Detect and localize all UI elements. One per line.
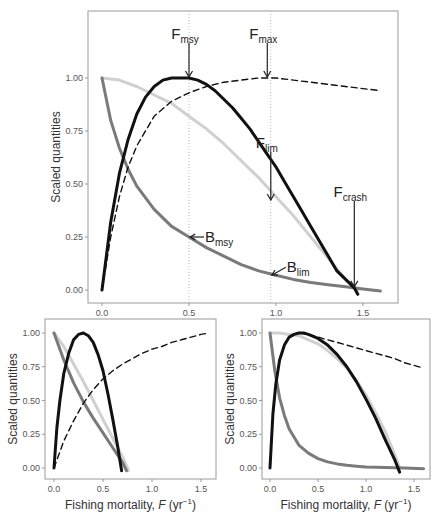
x-tick-label: 0.5 [312, 484, 325, 494]
annotation-label: Bmsy [205, 228, 233, 248]
x-tick-label: 1.0 [270, 308, 283, 318]
y-tick-label: 1.00 [65, 73, 83, 83]
annotation-sub: lim [297, 267, 310, 278]
plot-frame [45, 319, 216, 479]
x-tick-label: 0.0 [96, 308, 109, 318]
x-tick-label: 0.0 [48, 484, 61, 494]
series-line-yield-per-recruit [54, 333, 209, 468]
x-tick-label: 0.5 [97, 484, 110, 494]
annotation-main: F [171, 25, 180, 42]
annotation-b-lim: Blim [272, 258, 310, 278]
x-tick-label: 1.5 [195, 484, 208, 494]
x-tick-label: 0.5 [183, 308, 196, 318]
x-tick-label: 1.0 [360, 484, 373, 494]
series-line-biomass [270, 333, 424, 469]
series-line-yield [102, 78, 358, 294]
annotation-main: F [249, 25, 258, 42]
x-axis-label-text: Fishing mortality, [281, 498, 374, 512]
annotation-sub: crash [343, 192, 367, 203]
annotation-sub: msy [215, 237, 233, 248]
y-tick-label: 0.25 [22, 429, 40, 439]
y-tick-label: 1.00 [239, 328, 257, 338]
series-group [270, 333, 424, 472]
annotation-label: Blim [287, 258, 310, 278]
x-axis-label-close: ) [407, 498, 411, 512]
annotation-sub: msy [180, 34, 198, 45]
annotation-main: F [333, 183, 342, 200]
plot-frame [88, 11, 398, 303]
series-line-biomass [54, 333, 127, 471]
annotation-f-max: Fmax [249, 25, 277, 77]
y-tick-label: 0.25 [239, 429, 257, 439]
y-tick-label: 0.00 [65, 285, 83, 295]
y-axis-label: Scaled quantities [49, 111, 63, 202]
annotation-sub: lim [265, 143, 278, 154]
y-tick-label: 0.25 [65, 232, 83, 242]
figure: 0.000.250.500.751.000.00.51.01.5Scaled q… [0, 0, 439, 514]
series-group [54, 333, 209, 471]
x-axis-label-unit: (yr [166, 498, 183, 512]
x-axis-label-unit: (yr [381, 498, 398, 512]
y-axis-label: Scaled quantities [6, 353, 20, 444]
y-tick-label: 0.50 [239, 396, 257, 406]
y-tick-label: 0.00 [22, 463, 40, 473]
x-axis-label: Fishing mortality, F (yr−1) [281, 497, 412, 512]
y-tick-label: 0.75 [65, 126, 83, 136]
x-tick-label: 1.0 [146, 484, 159, 494]
x-axis-label-text: Fishing mortality, [65, 498, 158, 512]
x-tick-label: 1.5 [357, 308, 370, 318]
x-tick-label: 1.5 [408, 484, 421, 494]
annotation-main: B [205, 228, 215, 245]
y-tick-label: 0.00 [239, 463, 257, 473]
annotation-label: Fmax [249, 25, 277, 45]
y-tick-label: 0.50 [22, 396, 40, 406]
annotation-label: Fcrash [333, 183, 367, 203]
panel-main: 0.000.250.500.751.000.00.51.01.5Scaled q… [49, 11, 398, 318]
annotation-f-msy: Fmsy [171, 25, 199, 77]
x-axis-label: Fishing mortality, F (yr−1) [65, 497, 196, 512]
y-tick-label: 1.00 [22, 328, 40, 338]
y-tick-label: 0.50 [65, 179, 83, 189]
annotation-b-msy: Bmsy [190, 228, 233, 248]
panel-bottom-left: 0.000.250.500.751.000.00.51.01.5Scaled q… [6, 319, 216, 512]
annotation-sub: max [258, 34, 277, 45]
y-axis-label: Scaled quantities [223, 353, 237, 444]
series-line-yield [54, 333, 122, 471]
y-tick-label: 0.75 [239, 362, 257, 372]
y-tick-label: 0.75 [22, 362, 40, 372]
x-axis-label-close: ) [192, 498, 196, 512]
annotation-label: Flim [256, 134, 278, 154]
annotation-main: F [256, 134, 265, 151]
panel-bottom-right: 0.000.250.500.751.000.00.51.01.5Scaled q… [223, 319, 430, 512]
annotation-main: B [287, 258, 297, 275]
annotation-label: Fmsy [171, 25, 199, 45]
x-tick-label: 0.0 [264, 484, 277, 494]
